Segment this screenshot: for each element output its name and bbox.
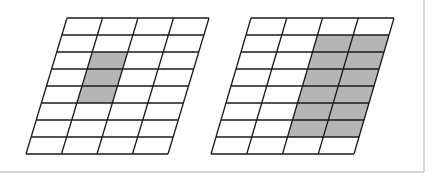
shaded-cell — [323, 120, 364, 137]
shaded-cell — [343, 52, 384, 69]
shaded-cell — [313, 35, 354, 52]
shaded-cell — [303, 69, 344, 86]
grid-figure — [0, 0, 443, 177]
shaded-cell — [77, 86, 118, 103]
shaded-cell — [338, 69, 379, 86]
shaded-cell — [333, 86, 374, 103]
shaded-cell — [298, 86, 339, 103]
shaded-cell — [308, 52, 349, 69]
shaded-cell — [288, 120, 329, 137]
figure-frame — [0, 0, 443, 177]
right-grid — [211, 18, 394, 154]
shaded-cell — [82, 69, 123, 86]
shaded-cell — [348, 35, 389, 52]
shaded-cell — [87, 52, 128, 69]
shaded-cell — [293, 103, 334, 120]
shaded-cell — [328, 103, 369, 120]
left-grid — [26, 18, 209, 154]
